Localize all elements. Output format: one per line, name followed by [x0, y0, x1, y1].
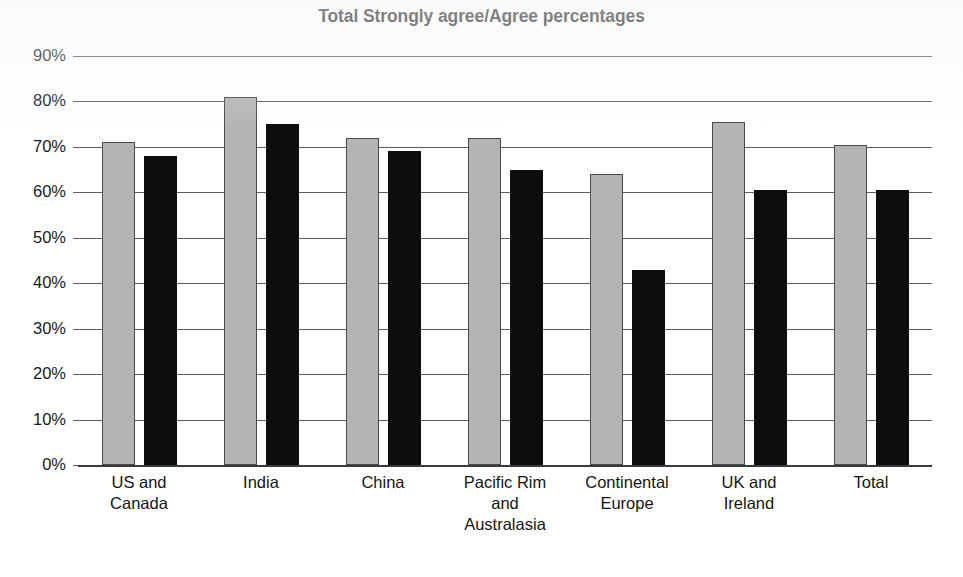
bar-series-2: [144, 156, 177, 465]
plot-area: [78, 56, 932, 465]
x-tick-label: ContinentalEurope: [560, 472, 694, 514]
bar-series-1: [712, 122, 745, 465]
bar-series-2: [876, 190, 909, 465]
x-tick-label: Pacific RimandAustralasia: [438, 472, 572, 535]
x-tick-label-line: Australasia: [438, 514, 572, 535]
bar-group: [688, 56, 810, 465]
y-tick-label: 60%: [12, 183, 66, 200]
y-axis: 0%10%20%30%40%50%60%70%80%90%: [6, 56, 66, 465]
x-axis: US andCanadaIndiaChinaPacific RimandAust…: [78, 472, 932, 572]
x-tick-label-line: India: [194, 472, 328, 493]
x-tick-label: India: [194, 472, 328, 493]
bar-chart: Total Strongly agree/Agree percentages 0…: [0, 0, 963, 577]
y-tick-label: 50%: [12, 229, 66, 246]
y-tick-label: 90%: [12, 47, 66, 64]
bar-group: [78, 56, 200, 465]
x-tick-label-line: Continental: [560, 472, 694, 493]
bar-series-2: [388, 151, 421, 465]
y-tick-label: 70%: [12, 138, 66, 155]
x-tick-label: China: [316, 472, 450, 493]
x-tick-label-line: and: [438, 493, 572, 514]
bar-series-2: [754, 190, 787, 465]
x-tick-label-line: US and: [72, 472, 206, 493]
y-tick-label: 10%: [12, 411, 66, 428]
x-tick-label: Total: [804, 472, 938, 493]
bar-series-1: [468, 138, 501, 465]
y-tick-label: 0%: [12, 456, 66, 473]
bar-series-2: [510, 170, 543, 465]
x-tick-label-line: China: [316, 472, 450, 493]
bar-series-1: [224, 97, 257, 465]
bar-series-1: [834, 145, 867, 465]
bar-group: [444, 56, 566, 465]
bar-series-2: [632, 270, 665, 465]
x-tick-label-line: Ireland: [682, 493, 816, 514]
chart-title: Total Strongly agree/Agree percentages: [0, 6, 963, 27]
x-tick-label-line: Europe: [560, 493, 694, 514]
bar-series-1: [346, 138, 379, 465]
y-tick-label: 20%: [12, 365, 66, 382]
y-tick-label: 40%: [12, 274, 66, 291]
x-tick-label: US andCanada: [72, 472, 206, 514]
bar-series-1: [102, 142, 135, 465]
x-tick-label-line: Canada: [72, 493, 206, 514]
bar-series-2: [266, 124, 299, 465]
y-tick-label: 30%: [12, 320, 66, 337]
bar-group: [322, 56, 444, 465]
bar-series-1: [590, 174, 623, 465]
x-tick-label-line: UK and: [682, 472, 816, 493]
x-tick-label-line: Total: [804, 472, 938, 493]
axis-baseline: [78, 465, 932, 467]
y-tick-label: 80%: [12, 92, 66, 109]
x-tick-label-line: Pacific Rim: [438, 472, 572, 493]
bar-group: [566, 56, 688, 465]
x-tick-label: UK andIreland: [682, 472, 816, 514]
bar-group: [810, 56, 932, 465]
bar-group: [200, 56, 322, 465]
